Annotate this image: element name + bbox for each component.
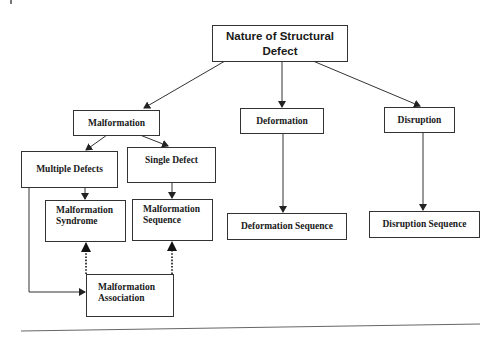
node-malformation-association: Malformation Association bbox=[86, 274, 174, 317]
node-nature-of-structural-defect: Nature of Structural Defect bbox=[212, 25, 348, 62]
node-label-line1: Malformation bbox=[98, 282, 155, 293]
edge-malformation-single bbox=[140, 135, 168, 146]
node-label: Disruption bbox=[398, 115, 442, 126]
node-label-line1: Malformation bbox=[56, 205, 113, 216]
edge-root-disruption bbox=[313, 61, 420, 106]
node-single-defect: Single Defect bbox=[127, 147, 216, 183]
node-label-line2: Association bbox=[98, 293, 155, 304]
node-malformation-syndrome: Malformation Syndrome bbox=[45, 200, 126, 242]
node-label-line1: Malformation bbox=[143, 204, 200, 215]
node-malformation: Malformation bbox=[73, 110, 160, 136]
node-label: Malformation bbox=[88, 118, 145, 129]
node-multiple-defects: Multiple Defects bbox=[21, 151, 118, 188]
node-label-line2: Sequence bbox=[143, 215, 200, 226]
edge-malformation-multiple bbox=[86, 135, 107, 150]
diagram-canvas: Nature of Structural Defect Malformation… bbox=[0, 0, 496, 339]
node-label-line2: Syndrome bbox=[56, 216, 113, 227]
node-disruption: Disruption bbox=[384, 107, 455, 133]
node-label: Deformation Sequence bbox=[241, 221, 333, 232]
node-label: Disruption Sequence bbox=[382, 219, 466, 230]
edge-root-malformation bbox=[144, 61, 225, 108]
node-label: Deformation bbox=[256, 116, 308, 127]
node-deformation-sequence: Deformation Sequence bbox=[227, 213, 347, 240]
node-malformation-sequence: Malformation Sequence bbox=[132, 199, 213, 241]
node-label: Nature of Structural Defect bbox=[217, 29, 343, 59]
node-label: Multiple Defects bbox=[36, 164, 103, 175]
bottom-rule bbox=[21, 324, 480, 331]
node-label: Single Defect bbox=[145, 155, 198, 166]
node-disruption-sequence: Disruption Sequence bbox=[369, 211, 480, 238]
node-deformation: Deformation bbox=[240, 108, 324, 134]
